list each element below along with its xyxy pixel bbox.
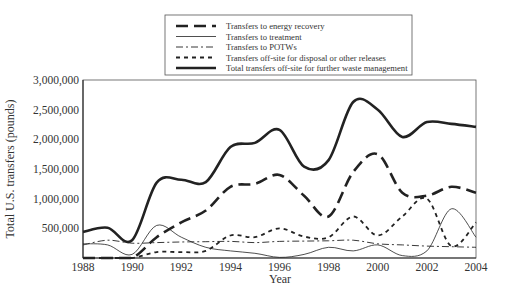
line-chart: Transfers to energy recoveryTransfers to… (0, 0, 508, 300)
y-axis-label: Total U.S. transfers (pounds) (3, 100, 17, 239)
x-tick-label: 1998 (317, 261, 340, 273)
x-tick-label: 2002 (415, 261, 438, 273)
x-tick-label: 2004 (465, 261, 488, 273)
y-tick-label: 3,000,000 (33, 74, 79, 87)
x-tick-label: 1990 (121, 261, 144, 273)
plot-frame (83, 80, 476, 258)
series-line-3 (83, 198, 476, 258)
y-tick-labels: 500,0001,000,0001,500,0002,000,0002,500,… (33, 74, 79, 235)
legend-label: Transfers to POTWs (226, 42, 297, 52)
y-tick-label: 2,000,000 (33, 133, 79, 146)
x-tick-label: 2000 (366, 261, 389, 273)
legend-label: Transfers to energy recovery (226, 21, 325, 31)
series-lines (83, 99, 476, 258)
y-tick-label: 2,500,000 (33, 104, 79, 117)
legend-label: Total transfers off-site for further was… (226, 63, 408, 73)
y-tick-label: 500,000 (42, 222, 80, 235)
legend-label: Transfers to treatment (226, 32, 302, 42)
x-tick-label: 1988 (72, 261, 95, 273)
y-tick-label: 1,000,000 (33, 193, 79, 206)
series-line-0 (83, 154, 476, 258)
x-tick-label: 1992 (170, 261, 193, 273)
legend: Transfers to energy recoveryTransfers to… (165, 15, 412, 75)
legend-label: Transfers off-site for disposal or other… (226, 53, 387, 63)
x-tick-label: 1994 (219, 261, 242, 273)
x-axis-label: Year (269, 272, 291, 286)
y-tick-label: 1,500,000 (33, 163, 79, 176)
series-line-4 (83, 99, 476, 242)
